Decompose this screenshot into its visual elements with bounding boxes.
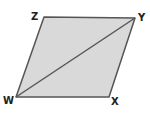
vertex-label-z: Z — [31, 11, 38, 22]
vertex-label-y: Y — [137, 12, 146, 23]
vertex-label-w: W — [3, 95, 14, 106]
parallelogram-diagram: Z Y X W — [0, 0, 150, 115]
vertex-label-x: X — [111, 96, 119, 107]
